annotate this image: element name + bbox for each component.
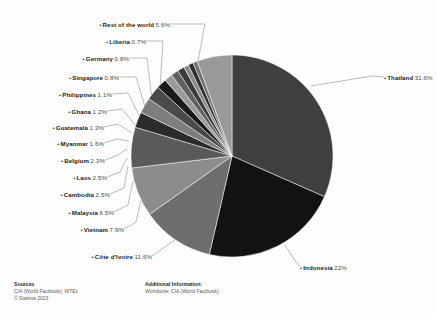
- pie-callout-label: •Guatemala1.3%: [53, 125, 104, 131]
- leader-line: [104, 124, 132, 133]
- pie-label-name: Liberia: [109, 38, 130, 45]
- bullet-icon: •: [80, 227, 82, 233]
- pie-callout-label: •Côte d'Ivoire11.6%: [92, 254, 152, 260]
- leader-line: [107, 158, 127, 177]
- pie-label-name: Vietnam: [84, 226, 108, 233]
- pie-callout-label: •Cambodia2.5%: [60, 192, 110, 198]
- pie-callout-label: •Singapore0.8%: [69, 75, 119, 81]
- bullet-icon: •: [60, 192, 62, 198]
- pie-label-name: Philippines: [62, 91, 96, 98]
- leader-line: [285, 245, 300, 267]
- pie-label-value: 2.5%: [93, 174, 107, 181]
- leader-line: [114, 181, 133, 212]
- pie-label-value: 1.2%: [93, 108, 107, 115]
- pie-label-name: Côte d'Ivoire: [95, 253, 133, 260]
- leader-line: [119, 77, 147, 113]
- bullet-icon: •: [61, 158, 63, 164]
- pie-callout-label: •Belgium2.3%: [61, 158, 105, 164]
- pie-label-value: 6.5%: [100, 209, 114, 216]
- sources-copyright: © Statista 2023: [14, 295, 78, 302]
- sources-block: Sources CIA (World Factbook); WTEx © Sta…: [14, 281, 78, 302]
- pie-callout-label: •Laos2.5%: [73, 175, 107, 181]
- pie-callout-label: •Liberia0.7%: [106, 39, 146, 45]
- pie-label-name: Laos: [76, 174, 91, 181]
- leader-line: [107, 109, 136, 126]
- pie-label-name: Indonesia: [303, 264, 333, 271]
- leader-line: [104, 139, 129, 143]
- bullet-icon: •: [99, 22, 101, 28]
- pie-label-name: Ghana: [72, 108, 92, 115]
- pie-label-name: Malaysia: [72, 209, 98, 216]
- pie-label-value: 22%: [334, 264, 347, 271]
- pie-label-value: 5.6%: [156, 21, 170, 28]
- pie-label-name: Germany: [86, 55, 113, 62]
- pie-label-value: 1.1%: [98, 91, 112, 98]
- pie-callout-label: •Thailand31.6%: [384, 75, 433, 81]
- pie-label-value: 2.3%: [91, 157, 105, 164]
- bullet-icon: •: [73, 175, 75, 181]
- pie-label-name: Singapore: [72, 74, 103, 81]
- pie-callout-label: •Rest of the world5.6%: [99, 22, 170, 28]
- leader-line: [311, 76, 384, 86]
- pie-label-value: 11.6%: [135, 253, 152, 260]
- pie-label-value: 2.5%: [96, 191, 110, 198]
- bullet-icon: •: [59, 92, 61, 98]
- pie-callout-label: •Malaysia6.5%: [68, 210, 114, 216]
- sources-title: Sources: [14, 281, 78, 288]
- pie-label-name: Myanmar: [61, 140, 89, 147]
- bullet-icon: •: [384, 75, 386, 81]
- bullet-icon: •: [68, 210, 70, 216]
- pie-label-name: Guatemala: [56, 124, 88, 131]
- leader-line: [105, 149, 127, 160]
- pie-callout-label: •Germany0.8%: [83, 56, 129, 62]
- bullet-icon: •: [53, 125, 55, 131]
- bullet-icon: •: [300, 265, 302, 271]
- pie-label-value: 1.6%: [90, 140, 104, 147]
- pie-label-value: 0.7%: [132, 38, 146, 45]
- pie-callout-label: •Indonesia22%: [300, 265, 347, 271]
- bullet-icon: •: [106, 39, 108, 45]
- additional-information-block: Additional Information: Worldwide; CIA (…: [145, 281, 219, 295]
- pie-callout-label: •Vietnam7.9%: [80, 227, 124, 233]
- pie-label-name: Rest of the world: [103, 21, 155, 28]
- leader-line: [112, 93, 141, 119]
- pie-slice-group: [131, 55, 333, 257]
- pie-label-name: Belgium: [64, 157, 89, 164]
- pie-callout-label: •Myanmar1.6%: [57, 141, 104, 147]
- pie-label-value: 0.8%: [115, 55, 129, 62]
- pie-label-name: Thailand: [387, 74, 413, 81]
- bullet-icon: •: [83, 56, 85, 62]
- leader-line: [110, 166, 128, 194]
- bullet-icon: •: [69, 75, 71, 81]
- pie-label-value: 7.9%: [110, 226, 124, 233]
- pie-label-value: 0.8%: [105, 74, 119, 81]
- leader-line: [152, 239, 176, 256]
- pie-label-name: Cambodia: [64, 191, 94, 198]
- pie-callout-label: •Ghana1.2%: [68, 109, 107, 115]
- bullet-icon: •: [92, 254, 94, 260]
- bullet-icon: •: [68, 109, 70, 115]
- leader-line: [124, 200, 141, 229]
- bullet-icon: •: [57, 141, 59, 147]
- additional-information-line: Worldwide; CIA (World Factbook): [145, 288, 219, 295]
- pie-label-value: 1.3%: [90, 124, 104, 131]
- pie-label-value: 31.6%: [415, 74, 433, 81]
- pie-callout-label: •Philippines1.1%: [59, 92, 112, 98]
- additional-information-title: Additional Information:: [145, 281, 219, 288]
- pie-chart-figure: •Thailand31.6%•Indonesia22%•Côte d'Ivoir…: [0, 0, 437, 318]
- sources-line: CIA (World Factbook); WTEx: [14, 288, 78, 295]
